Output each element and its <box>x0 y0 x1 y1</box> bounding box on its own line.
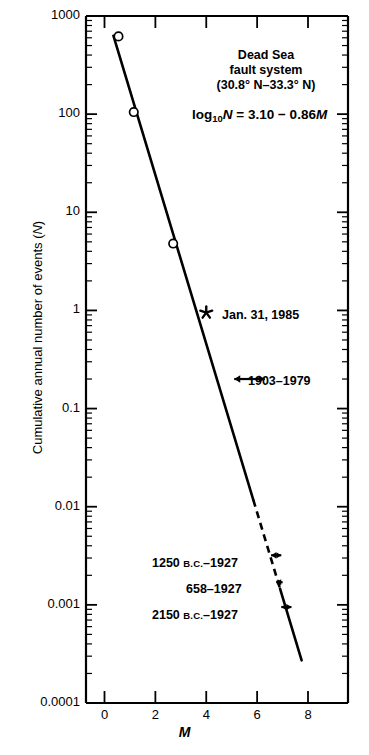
annotation-658-1927: 658–1927 <box>186 582 242 597</box>
x-axis-title: M <box>0 724 369 740</box>
title-line-1: Dead Sea <box>196 48 336 63</box>
equation-base: 10 <box>212 113 223 124</box>
annotation-jan-1985: Jan. 31, 1985 <box>222 308 299 323</box>
data-point-asterisk <box>200 306 212 317</box>
ann-1250-prefix: 1250 <box>152 556 183 570</box>
annotation-2150bc-1927: 2150 B.C.–1927 <box>152 608 238 623</box>
equation-m: M <box>316 107 327 122</box>
x-tick-label: 6 <box>237 707 277 722</box>
range-marker-1250bc-1927 <box>271 552 281 558</box>
y-tick-label: 100 <box>0 105 80 120</box>
y-axis-title-tail: ) <box>30 221 45 225</box>
x-tick-label: 8 <box>288 707 328 722</box>
arrow-head-left <box>234 375 240 382</box>
y-tick-label: 0.0001 <box>0 694 80 709</box>
y-tick-label: 0.01 <box>0 498 80 513</box>
y-axis-title: Cumulative annual number of events (N) <box>30 208 45 468</box>
arrow-head-right <box>276 552 281 558</box>
ann-2150-smallcaps: B.C. <box>183 610 203 621</box>
y-axis-title-text: Cumulative annual number of events ( <box>30 235 45 455</box>
data-point-circle <box>114 32 122 40</box>
x-tick-label: 4 <box>186 707 226 722</box>
title-line-3: (30.8° N–33.3° N) <box>196 78 336 93</box>
equation-log: log <box>192 107 212 122</box>
y-tick-label: 1000 <box>0 7 80 22</box>
fit-line-tail <box>280 589 302 661</box>
ann-1250-smallcaps: B.C. <box>183 558 203 569</box>
x-tick-label: 0 <box>85 707 125 722</box>
range-markers-group <box>234 375 291 610</box>
y-tick-label: 0.001 <box>0 596 80 611</box>
annotation-1903-1979: 1903–1979 <box>248 374 311 389</box>
data-point-circle <box>169 239 177 247</box>
title-line-2: fault system <box>196 63 336 78</box>
regression-equation: log10N = 3.10 − 0.86M <box>192 107 327 123</box>
x-tick-label: 2 <box>135 707 175 722</box>
y-axis-title-var: N <box>30 225 45 234</box>
annotation-1250bc-1927: 1250 B.C.–1927 <box>152 556 238 571</box>
figure-container: 10001001010.10.010.0010.0001 02468 Dead … <box>0 0 369 755</box>
fit-line-solid <box>113 36 253 500</box>
arrow-head-right <box>286 604 291 610</box>
chart-title: Dead Sea fault system (30.8° N–33.3° N) <box>196 48 336 92</box>
fit-line-dashed <box>253 500 280 589</box>
ann-2150-prefix: 2150 <box>152 608 183 622</box>
ann-1250-suffix: –1927 <box>203 556 238 570</box>
ann-2150-suffix: –1927 <box>203 608 238 622</box>
data-point-circle <box>130 108 138 116</box>
equation-n: N <box>223 107 233 122</box>
equation-rest: = 3.10 − 0.86 <box>233 107 316 122</box>
